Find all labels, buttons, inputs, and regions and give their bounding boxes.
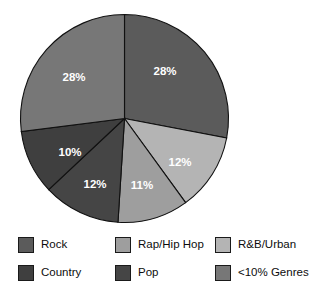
legend-swatch-country [18, 265, 34, 281]
legend-item-rock[interactable]: Rock [18, 231, 115, 259]
pie-slice-value-label: 28% [153, 65, 176, 77]
pie-chart-figure: 28%12%11%12%10%28% Rock Rap/Hip Hop R&B/… [0, 0, 335, 297]
legend-label-rock: Rock [41, 239, 67, 251]
legend-item-rnb-urban[interactable]: R&B/Urban [215, 231, 335, 259]
legend-item-pop[interactable]: Pop [115, 259, 215, 287]
legend-item-rap-hip-hop[interactable]: Rap/Hip Hop [115, 231, 215, 259]
pie-svg: 28%12%11%12%10%28% [0, 0, 335, 232]
legend-swatch-rnb-urban [215, 237, 231, 253]
pie-slice-group [21, 15, 229, 223]
legend-label-pop: Pop [138, 267, 158, 279]
pie-slice-value-label: 12% [168, 156, 191, 168]
legend-swatch-pop [115, 265, 131, 281]
legend-swatch-rap-hip-hop [115, 237, 131, 253]
legend-label-under-10-genres: <10% Genres [238, 267, 309, 279]
legend-item-under-10-genres[interactable]: <10% Genres [215, 259, 335, 287]
legend-swatch-under-10-genres [215, 265, 231, 281]
legend-swatch-rock [18, 237, 34, 253]
pie-slice-value-label: 10% [58, 146, 81, 158]
pie-slice-value-label: 28% [62, 71, 85, 83]
pie-slice-value-label: 11% [131, 179, 153, 191]
legend-label-country: Country [41, 267, 81, 279]
legend-label-rnb-urban: R&B/Urban [238, 239, 296, 251]
legend-label-rap-hip-hop: Rap/Hip Hop [138, 239, 204, 251]
pie-slice-value-label: 12% [83, 178, 106, 190]
legend-item-country[interactable]: Country [18, 259, 115, 287]
chart-legend: Rock Rap/Hip Hop R&B/Urban Country Pop <… [0, 231, 335, 297]
pie-plot-area: 28%12%11%12%10%28% [0, 0, 335, 232]
